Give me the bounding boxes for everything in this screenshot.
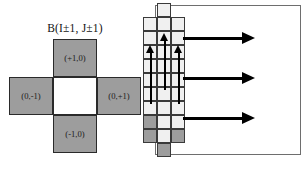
grid-cell-r1-c1 xyxy=(157,17,171,31)
grid-cell-r8-c0 xyxy=(143,115,157,129)
stencil-panel: B(I±1, J±1) (+1,0) (0,-1) (0,+1) (-1,0) xyxy=(0,0,150,171)
stencil-cell-east-label: (0,+1) xyxy=(108,91,129,101)
up-arrow-col-0 xyxy=(150,52,152,104)
flow-arrow-bottom xyxy=(183,117,243,120)
grid-cell-r9-c0 xyxy=(143,129,157,143)
stencil-cell-south: (-1,0) xyxy=(53,115,97,153)
domain-panel xyxy=(150,0,307,171)
grid-cell-r10-c1 xyxy=(157,143,171,157)
up-arrow-col-2 xyxy=(178,52,180,104)
grid-cell-r9-c2 xyxy=(171,129,185,143)
grid-cell-r0-c2 xyxy=(171,3,185,17)
flow-arrow-middle xyxy=(183,77,243,80)
grid-cell-r1-c0 xyxy=(143,17,157,31)
grid-cell-r1-c2 xyxy=(171,17,185,31)
stencil-cell-north-label: (+1,0) xyxy=(64,53,85,63)
grid-cell-r10-c0 xyxy=(143,143,157,157)
grid-cell-r9-c1 xyxy=(157,129,171,143)
domain-box xyxy=(155,5,301,155)
grid-cell-r8-c1 xyxy=(157,115,171,129)
page-title: B(I±1, J±1) xyxy=(0,22,150,34)
stencil-cell-north: (+1,0) xyxy=(53,39,97,77)
stencil-cell-south-label: (-1,0) xyxy=(65,129,84,139)
grid-cell-r0-c1 xyxy=(157,3,171,17)
grid-cell-r10-c2 xyxy=(171,143,185,157)
stencil-cell-west: (0,-1) xyxy=(9,77,53,115)
grid-cell-r7-c1 xyxy=(157,101,171,115)
stencil-cell-center xyxy=(53,77,97,115)
grid-cell-r0-c0 xyxy=(143,3,157,17)
stencil-cell-east: (0,+1) xyxy=(97,77,141,115)
up-arrow-col-1 xyxy=(164,40,166,90)
grid-cell-r2-c0 xyxy=(143,31,157,45)
stencil-cell-west-label: (0,-1) xyxy=(21,91,40,101)
flow-arrow-top xyxy=(183,37,243,40)
